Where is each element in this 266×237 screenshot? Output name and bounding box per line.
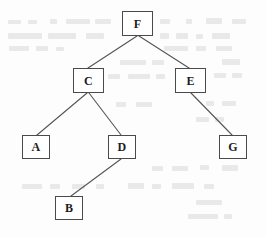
node-layer: FCEADGB [0,0,266,237]
tree-node-label-g: G [228,141,238,153]
tree-node-f[interactable]: F [122,11,153,36]
tree-diagram: FCEADGB [0,0,266,237]
tree-node-label-c: C [84,74,93,86]
tree-node-label-a: A [32,141,41,153]
tree-node-c[interactable]: C [73,68,104,93]
tree-node-g[interactable]: G [219,135,247,159]
tree-node-label-f: F [134,17,142,29]
tree-node-b[interactable]: B [55,196,83,220]
tree-node-d[interactable]: D [108,135,136,159]
tree-node-label-d: D [118,141,127,153]
tree-node-a[interactable]: A [22,135,50,159]
tree-node-e[interactable]: E [175,68,206,93]
tree-node-label-b: B [65,202,73,214]
tree-node-label-e: E [186,74,194,86]
